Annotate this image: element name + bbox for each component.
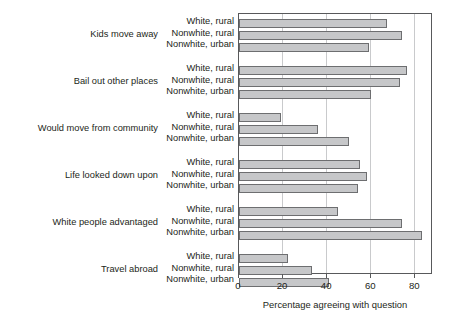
x-tick-label-60: 60 bbox=[355, 280, 385, 291]
bar bbox=[239, 219, 402, 228]
category-label-6: Travel abroad bbox=[0, 264, 158, 275]
series-label: Nonwhite, urban bbox=[160, 39, 234, 51]
series-label: Nonwhite, urban bbox=[160, 133, 234, 145]
category-label-5: White people advantaged bbox=[0, 217, 158, 228]
x-tick-label-40: 40 bbox=[311, 280, 341, 291]
bar bbox=[239, 113, 281, 122]
bar bbox=[239, 137, 349, 146]
series-label: White, rural bbox=[160, 204, 234, 216]
x-tick-80 bbox=[414, 274, 415, 278]
series-label: Nonwhite, urban bbox=[160, 86, 234, 98]
series-label-group-2: White, ruralNonwhite, ruralNonwhite, urb… bbox=[160, 63, 234, 98]
series-label: Nonwhite, rural bbox=[160, 28, 234, 40]
bar bbox=[239, 43, 369, 52]
x-axis-title: Percentage agreeing with question bbox=[238, 299, 432, 310]
series-label-group-3: White, ruralNonwhite, ruralNonwhite, urb… bbox=[160, 110, 234, 145]
series-label: Nonwhite, urban bbox=[160, 180, 234, 192]
x-tick-20 bbox=[282, 274, 283, 278]
x-tick-0 bbox=[238, 274, 239, 278]
bar bbox=[239, 207, 338, 216]
series-label: Nonwhite, rural bbox=[160, 216, 234, 228]
x-tick-60 bbox=[370, 274, 371, 278]
bar bbox=[239, 90, 371, 99]
category-label-1: Kids move away bbox=[0, 29, 158, 40]
series-label-group-5: White, ruralNonwhite, ruralNonwhite, urb… bbox=[160, 204, 234, 239]
x-tick-label-80: 80 bbox=[399, 280, 429, 291]
bar bbox=[239, 31, 402, 40]
series-label-group-4: White, ruralNonwhite, ruralNonwhite, urb… bbox=[160, 157, 234, 192]
series-label: Nonwhite, urban bbox=[160, 227, 234, 239]
x-tick-label-0: 0 bbox=[223, 280, 253, 291]
series-label: Nonwhite, rural bbox=[160, 169, 234, 181]
series-label: Nonwhite, rural bbox=[160, 263, 234, 275]
bar bbox=[239, 266, 312, 275]
bar bbox=[239, 78, 400, 87]
series-label: White, rural bbox=[160, 16, 234, 28]
category-label-2: Bail out other places bbox=[0, 76, 158, 87]
plot-area bbox=[238, 13, 432, 274]
x-tick-40 bbox=[326, 274, 327, 278]
series-label: White, rural bbox=[160, 63, 234, 75]
bar bbox=[239, 254, 288, 263]
bar bbox=[239, 160, 360, 169]
bar bbox=[239, 172, 367, 181]
series-label: White, rural bbox=[160, 251, 234, 263]
horizontal-bar-chart: Kids move awayWhite, ruralNonwhite, rura… bbox=[0, 0, 450, 324]
bar bbox=[239, 184, 358, 193]
category-label-4: Life looked down upon bbox=[0, 170, 158, 181]
bar bbox=[239, 19, 387, 28]
x-tick-label-20: 20 bbox=[267, 280, 297, 291]
series-label: White, rural bbox=[160, 110, 234, 122]
category-label-3: Would move from community bbox=[0, 123, 158, 134]
series-label: White, rural bbox=[160, 157, 234, 169]
series-label: Nonwhite, rural bbox=[160, 122, 234, 134]
bar bbox=[239, 125, 318, 134]
series-label: Nonwhite, rural bbox=[160, 75, 234, 87]
bar bbox=[239, 66, 407, 75]
series-label-group-1: White, ruralNonwhite, ruralNonwhite, urb… bbox=[160, 16, 234, 51]
bar bbox=[239, 231, 422, 240]
